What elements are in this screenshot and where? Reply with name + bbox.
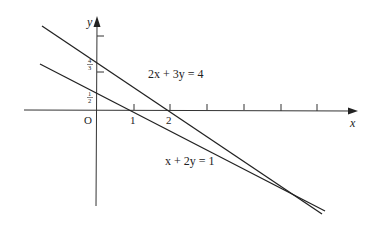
svg-text:4: 4	[88, 57, 92, 64]
x-tick-label-1: 1	[130, 114, 136, 126]
y-axis-label: y	[86, 15, 93, 29]
equation-label-2: x + 2y = 1	[165, 154, 215, 168]
x-axis	[24, 104, 358, 115]
y-label-one-half: 1 2	[87, 90, 93, 104]
coordinate-diagram: y x O 1 2 4 3 1 2 2x + 3y = 4 x + 2y = 1	[0, 0, 377, 230]
y-axis	[94, 16, 105, 206]
x-tick-label-2: 2	[166, 114, 172, 126]
svg-text:1: 1	[88, 90, 91, 97]
x-axis-label: x	[349, 116, 356, 130]
svg-text:2: 2	[88, 97, 91, 104]
origin-label: O	[84, 114, 92, 126]
x-axis-arrow-icon	[348, 108, 358, 115]
equation-label-1: 2x + 3y = 4	[148, 67, 204, 81]
svg-text:3: 3	[88, 64, 91, 71]
y-axis-arrow-icon	[94, 16, 101, 27]
line-x-2y-1	[40, 64, 325, 211]
